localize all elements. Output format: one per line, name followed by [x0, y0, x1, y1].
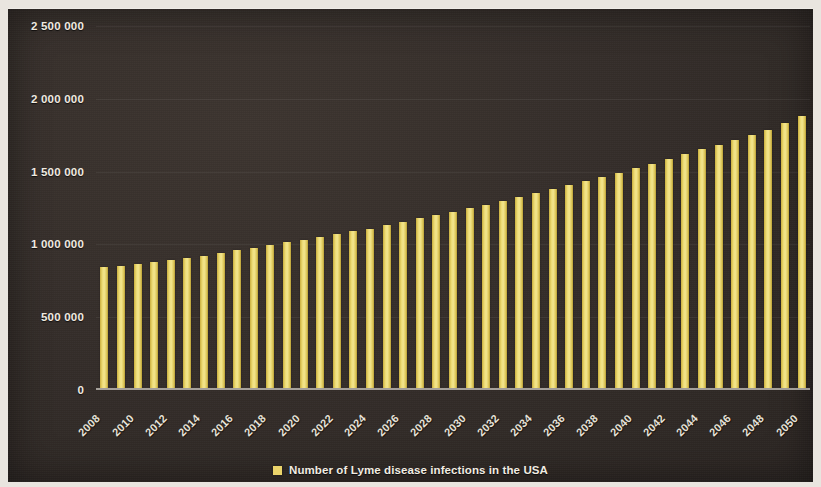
bar: [134, 264, 142, 388]
bar: [748, 135, 756, 388]
bar: [200, 256, 208, 388]
bar: [615, 173, 623, 388]
y-axis-tick-label: 2 000 000: [31, 93, 84, 105]
x-axis-tick-label: 2018: [242, 412, 268, 438]
x-axis-tick-label: 2038: [574, 412, 600, 438]
y-axis-tick-label: 2 500 000: [31, 20, 84, 32]
bar: [366, 229, 374, 388]
bar: [466, 208, 474, 388]
bar: [499, 201, 507, 388]
bar: [698, 149, 706, 388]
photo-edge-top: [0, 0, 821, 8]
photographed-chart: 0500 0001 000 0001 500 0002 000 0002 500…: [0, 0, 821, 487]
photo-edge-bottom: [0, 482, 821, 487]
bar: [482, 205, 490, 388]
bar: [798, 116, 806, 388]
bar: [333, 234, 341, 388]
bar: [233, 250, 241, 388]
bar: [183, 258, 191, 388]
bar: [565, 185, 573, 388]
bar: [316, 237, 324, 388]
x-axis-tick-label: 2050: [773, 412, 799, 438]
bar: [598, 177, 606, 388]
bar: [300, 240, 308, 388]
x-axis-tick-label: 2032: [475, 412, 501, 438]
bar: [416, 218, 424, 388]
photo-edge-right: [813, 0, 821, 487]
bar: [532, 193, 540, 388]
y-axis-tick-label: 1 500 000: [31, 166, 84, 178]
photo-edge-left: [0, 0, 8, 487]
bar: [731, 140, 739, 388]
bar: [582, 181, 590, 388]
bar: [100, 267, 108, 388]
bar: [715, 145, 723, 388]
bar: [283, 242, 291, 388]
x-axis-tick-label: 2044: [674, 412, 700, 438]
x-axis-tick-label: 2048: [740, 412, 766, 438]
bar: [781, 123, 789, 388]
y-axis: 0500 0001 000 0001 500 0002 000 0002 500…: [8, 26, 92, 390]
x-axis-tick-label: 2046: [707, 412, 733, 438]
bar: [383, 225, 391, 388]
x-axis-tick-label: 2020: [275, 412, 301, 438]
bar: [399, 222, 407, 388]
bar-series: [96, 26, 810, 388]
bar: [266, 245, 274, 388]
bar: [250, 248, 258, 388]
bar: [681, 154, 689, 388]
x-axis-tick-label: 2036: [541, 412, 567, 438]
bar: [665, 159, 673, 388]
x-axis-tick-label: 2040: [607, 412, 633, 438]
bar: [432, 215, 440, 388]
x-axis: 2008201020122014201620182020202220242026…: [96, 392, 810, 450]
chart-canvas: 0500 0001 000 0001 500 0002 000 0002 500…: [8, 9, 813, 482]
bar: [515, 197, 523, 388]
x-axis-tick-label: 2022: [308, 412, 334, 438]
x-axis-tick-label: 2010: [109, 412, 135, 438]
x-axis-line: [96, 388, 810, 390]
bar: [150, 262, 158, 388]
y-axis-tick-label: 0: [77, 384, 84, 396]
plot-area: [96, 26, 810, 390]
bar: [349, 231, 357, 388]
bar: [764, 130, 772, 388]
chart-legend: Number of Lyme disease infections in the…: [8, 464, 813, 476]
x-axis-tick-label: 2034: [508, 412, 534, 438]
x-axis-tick-label: 2030: [441, 412, 467, 438]
bar: [648, 164, 656, 388]
x-axis-tick-label: 2008: [76, 412, 102, 438]
x-axis-tick-label: 2028: [408, 412, 434, 438]
x-axis-tick-label: 2012: [142, 412, 168, 438]
bar: [449, 212, 457, 388]
legend-color-swatch: [273, 466, 282, 475]
y-axis-tick-label: 1 000 000: [31, 238, 84, 250]
bar: [167, 260, 175, 388]
x-axis-tick-label: 2014: [176, 412, 202, 438]
bar: [632, 168, 640, 388]
legend-label: Number of Lyme disease infections in the…: [289, 464, 548, 476]
bar: [117, 266, 125, 388]
x-axis-tick-label: 2026: [375, 412, 401, 438]
x-axis-tick-label: 2024: [342, 412, 368, 438]
bar: [549, 189, 557, 388]
bar: [217, 253, 225, 388]
x-axis-tick-label: 2042: [641, 412, 667, 438]
y-axis-tick-label: 500 000: [41, 311, 84, 323]
x-axis-tick-label: 2016: [209, 412, 235, 438]
